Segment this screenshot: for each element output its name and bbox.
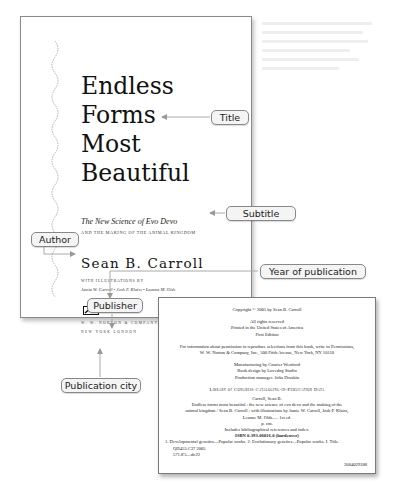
subtitle-annotation: Subtitle xyxy=(226,206,296,221)
publisher-annotation: Publisher xyxy=(87,298,143,313)
author-annotation: Author xyxy=(31,232,79,247)
publication-city-annotation: Publication city xyxy=(61,378,141,393)
year-annotation: Year of publication xyxy=(260,264,366,279)
annotation-arrows xyxy=(0,0,395,499)
title-annotation: Title xyxy=(211,110,249,125)
